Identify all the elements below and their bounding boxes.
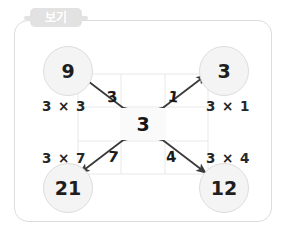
expression-bottom-right: 3 × 4 bbox=[206, 152, 251, 166]
node-bottom-right-value: 12 bbox=[211, 179, 237, 198]
tab-connector-right bbox=[81, 16, 88, 20]
center-node-value: 3 bbox=[136, 115, 149, 134]
multiplier-top-right: 1 bbox=[167, 89, 179, 105]
diagram-canvas: 보기 3 9 3 21 bbox=[0, 0, 286, 240]
node-top-left: 9 bbox=[43, 46, 93, 96]
example-tab-label: 보기 bbox=[45, 12, 68, 24]
expression-top-right: 3 × 1 bbox=[206, 100, 251, 114]
center-node: 3 bbox=[120, 108, 166, 140]
expression-top-left: 3 × 3 bbox=[42, 100, 87, 114]
node-bottom-right: 12 bbox=[199, 163, 249, 213]
node-top-right-value: 3 bbox=[217, 62, 230, 81]
node-top-right: 3 bbox=[199, 46, 249, 96]
expression-bottom-left: 3 × 7 bbox=[42, 152, 87, 166]
node-top-left-value: 9 bbox=[61, 62, 74, 81]
multiplier-bottom-left: 7 bbox=[107, 149, 119, 165]
node-bottom-left-value: 21 bbox=[55, 179, 81, 198]
multiplier-bottom-right: 4 bbox=[165, 149, 177, 165]
node-bottom-left: 21 bbox=[43, 163, 93, 213]
example-tab: 보기 bbox=[30, 8, 82, 27]
multiplier-top-left: 3 bbox=[106, 89, 118, 105]
